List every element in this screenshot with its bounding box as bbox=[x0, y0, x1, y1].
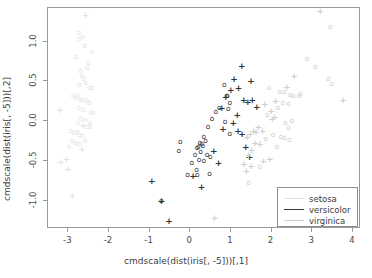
data-point-virginica: o bbox=[282, 134, 287, 142]
data-point-setosa: o bbox=[81, 106, 86, 114]
data-point-setosa: o bbox=[74, 54, 79, 62]
data-point-setosa: o bbox=[77, 35, 82, 43]
data-point-virginica: + bbox=[261, 99, 269, 108]
data-point-virginica: + bbox=[250, 126, 258, 135]
data-point-setosa: o bbox=[85, 124, 90, 132]
x-tick bbox=[271, 228, 272, 232]
data-point-virginica: o bbox=[286, 125, 291, 133]
data-point-setosa: o bbox=[81, 75, 86, 83]
data-point-setosa: o bbox=[83, 117, 88, 125]
data-point-versicolor: + bbox=[235, 84, 243, 93]
data-point-versicolor: + bbox=[247, 77, 255, 86]
x-axis-title: cmdscale(dist(iris[, -5]))[,1] bbox=[0, 256, 372, 266]
data-point-versicolor: o bbox=[226, 105, 231, 113]
data-point-setosa: + bbox=[64, 164, 72, 173]
data-point-versicolor: + bbox=[210, 146, 218, 155]
data-point-setosa: o bbox=[80, 33, 85, 41]
data-point-setosa: o bbox=[71, 93, 76, 101]
data-point-versicolor: o bbox=[207, 170, 212, 178]
data-point-setosa: o bbox=[88, 120, 93, 128]
data-point-virginica: o bbox=[277, 88, 282, 96]
data-point-virginica: + bbox=[252, 128, 260, 137]
data-point-virginica: o bbox=[289, 117, 294, 125]
legend-label-virginica: virginica bbox=[309, 215, 345, 227]
data-point-versicolor: + bbox=[158, 196, 166, 205]
data-point-setosa: + bbox=[68, 192, 76, 201]
data-point-versicolor: o bbox=[195, 144, 200, 152]
data-point-setosa: o bbox=[85, 64, 90, 72]
data-point-versicolor: o bbox=[222, 81, 227, 89]
data-point-setosa: o bbox=[79, 115, 84, 123]
x-tick bbox=[67, 228, 68, 232]
x-tick bbox=[230, 228, 231, 232]
data-point-virginica: + bbox=[283, 82, 291, 91]
data-point-versicolor: o bbox=[228, 130, 233, 138]
data-point-versicolor: + bbox=[233, 110, 241, 119]
data-point-virginica: o bbox=[279, 133, 284, 141]
data-point-setosa: o bbox=[89, 109, 94, 117]
data-point-versicolor: + bbox=[219, 125, 227, 134]
x-tick bbox=[189, 228, 190, 232]
data-point-virginica: + bbox=[256, 140, 264, 149]
data-point-versicolor: o bbox=[223, 118, 228, 126]
data-point-virginica: + bbox=[272, 97, 280, 106]
data-point-versicolor: o bbox=[205, 152, 210, 160]
data-point-setosa: o bbox=[73, 94, 78, 102]
data-point-versicolor: o bbox=[208, 153, 213, 161]
data-point-versicolor: o bbox=[210, 115, 215, 123]
data-point-virginica: + bbox=[339, 95, 347, 104]
data-point-setosa: o bbox=[75, 129, 80, 137]
data-point-virginica: + bbox=[268, 114, 276, 123]
data-point-virginica: + bbox=[268, 106, 276, 115]
data-point-versicolor: + bbox=[229, 118, 237, 127]
data-point-virginica: + bbox=[316, 7, 324, 15]
y-tick bbox=[43, 200, 47, 201]
data-point-virginica: + bbox=[259, 127, 267, 136]
data-point-versicolor: o bbox=[197, 156, 202, 164]
y-tick bbox=[43, 120, 47, 121]
data-point-virginica: + bbox=[290, 72, 298, 81]
data-point-setosa: + bbox=[56, 105, 64, 114]
data-point-setosa: o bbox=[87, 85, 92, 93]
data-point-setosa: o bbox=[67, 144, 72, 152]
data-point-versicolor: o bbox=[202, 157, 207, 165]
data-point-setosa: o bbox=[70, 137, 75, 145]
data-point-setosa: o bbox=[78, 96, 83, 104]
data-point-setosa: o bbox=[86, 59, 91, 67]
data-point-versicolor: o bbox=[198, 148, 203, 156]
data-point-virginica: o bbox=[271, 131, 276, 139]
data-point-setosa: o bbox=[77, 81, 82, 89]
data-point-setosa: o bbox=[89, 48, 94, 56]
x-tick bbox=[108, 228, 109, 232]
x-tick bbox=[352, 228, 353, 232]
data-point-virginica: o bbox=[291, 93, 296, 101]
y-tick-label: -0.5 bbox=[28, 150, 38, 170]
y-axis-title: cmdscale(dist(iris[, -5]))[,2] bbox=[0, 0, 14, 278]
data-point-setosa: + bbox=[57, 157, 65, 166]
data-point-versicolor: o bbox=[193, 151, 198, 159]
data-point-versicolor: + bbox=[238, 129, 246, 138]
data-point-setosa: o bbox=[76, 140, 81, 148]
data-point-versicolor: o bbox=[202, 133, 207, 141]
data-point-setosa: o bbox=[80, 133, 85, 141]
legend: setosaversicolorvirginica bbox=[277, 187, 358, 227]
data-point-setosa: o bbox=[78, 67, 83, 75]
x-tick-label: -3 bbox=[63, 235, 71, 245]
data-point-virginica: + bbox=[243, 133, 251, 142]
data-point-virginica: + bbox=[240, 160, 248, 169]
data-point-versicolor: o bbox=[217, 104, 222, 112]
x-tick-label: -2 bbox=[104, 235, 112, 245]
legend-item-virginica: virginica bbox=[278, 215, 357, 227]
data-point-versicolor: + bbox=[165, 216, 173, 225]
data-point-virginica: + bbox=[255, 123, 263, 132]
y-tick bbox=[43, 80, 47, 81]
data-point-versicolor: + bbox=[215, 159, 223, 168]
x-tick bbox=[311, 228, 312, 232]
data-point-setosa: o bbox=[76, 92, 81, 100]
data-point-virginica: o bbox=[267, 85, 272, 93]
data-point-virginica: o bbox=[328, 23, 333, 31]
data-point-versicolor: + bbox=[218, 104, 226, 113]
data-point-virginica: + bbox=[259, 156, 267, 165]
y-tick bbox=[43, 160, 47, 161]
data-point-virginica: o bbox=[298, 90, 303, 98]
